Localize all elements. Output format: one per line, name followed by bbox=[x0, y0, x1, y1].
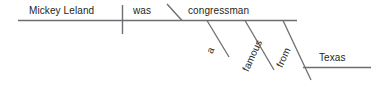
word-object-of-preposition: Texas bbox=[319, 52, 346, 63]
verb-predicate-divider bbox=[167, 4, 182, 21]
sentence-diagram: Mickey Leland was congressman a famous f… bbox=[0, 0, 371, 87]
word-verb: was bbox=[133, 5, 151, 16]
word-subject: Mickey Leland bbox=[29, 5, 94, 16]
word-predicate-noun: congressman bbox=[188, 5, 249, 16]
